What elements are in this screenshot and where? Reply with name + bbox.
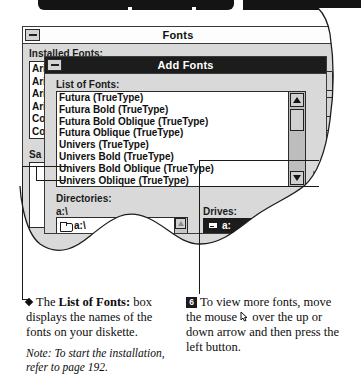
callout-right: 6To view more fonts, move the mouse over… [186,295,346,355]
sample-label: Sa [29,149,41,160]
floppy-drive-icon [208,222,218,229]
leader-line-right-box-top [199,160,319,161]
callout-left-bold: List of Fonts: [59,295,131,309]
drives-selected-value: a: [222,220,231,231]
arrow-up-icon[interactable] [290,93,304,107]
directory-name: a:\ [74,220,86,231]
add-fonts-window-title: Add Fonts [157,59,213,71]
list-item[interactable]: Futura Bold (TrueType) [59,104,305,116]
list-of-fonts-box[interactable]: Futura (TrueType) Futura Bold (TrueType)… [56,91,306,187]
directories-label: Directories: [56,193,112,204]
directories-path: a:\ [56,206,68,217]
folder-icon [60,222,71,230]
list-item[interactable]: Futura Oblique (TrueType) [59,127,305,139]
leader-line-left-stub [36,180,66,181]
arrow-up-icon[interactable] [175,218,186,229]
font-rows: Futura (TrueType) Futura Bold (TrueType)… [57,92,305,186]
right-triangle-marker-icon [338,127,349,141]
fonts-list-scrollbar[interactable] [288,92,305,186]
step-number-badge: 6 [186,297,197,308]
list-of-fonts-label: List of Fonts: [56,79,119,90]
list-item[interactable]: Univers (TrueType) [59,139,305,151]
page-margin-rule [352,108,353,348]
callout-left-text: The List of Fonts: box displays the name… [26,295,178,340]
add-fonts-titlebar: Add Fonts [45,57,326,74]
leader-line-right-vertical [199,186,200,294]
leader-line-left-stub-vertical [36,166,37,181]
fonts-titlebar: Fonts [23,27,333,44]
top-dark-band [0,0,361,11]
drives-dropdown[interactable]: a: [203,218,306,233]
leader-line-right-box-left [199,160,200,187]
scrollbar-thumb[interactable] [290,109,304,131]
minimize-icon[interactable] [47,59,62,71]
page-root: Fonts Installed Fonts: Ari Ari Ari Ari C… [0,0,361,380]
callout-right-text: 6To view more fonts, move the mouse over… [186,295,346,355]
leader-line-left-vertical [22,166,23,300]
leader-line-right-box-bottom [199,186,319,187]
mouse-pointer-icon [240,311,249,322]
callout-left-note: Note: To start the installation, refer t… [26,346,178,374]
list-item[interactable]: a:\ [57,218,187,231]
fonts-window-title: Fonts [163,29,194,41]
minimize-icon[interactable] [25,29,40,41]
list-item[interactable]: Futura Bold Oblique (TrueType) [59,116,305,128]
callout-left: The List of Fonts: box displays the name… [26,295,178,374]
diamond-bullet-icon [25,298,33,306]
list-item[interactable]: Univers Bold Oblique (TrueType) [59,163,305,175]
drives-label: Drives: [203,206,237,217]
callout-left-pre: The [36,295,59,309]
list-item[interactable]: Univers Oblique (TrueType) [59,175,305,187]
directories-listbox[interactable]: a:\ [56,217,188,234]
leader-line-left-horizontal [22,166,67,167]
list-item[interactable]: Futura (TrueType) [59,92,305,104]
arrow-down-icon[interactable] [290,171,304,185]
add-fonts-window: Add Fonts List of Fonts: Futura (TrueTyp… [44,56,327,234]
directories-scrollbar[interactable] [174,218,187,234]
